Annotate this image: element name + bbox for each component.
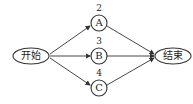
node-a-weight: 2 [91,4,107,13]
node-c-weight: 4 [91,69,107,78]
node-a-label: A [91,18,107,28]
node-b-label: B [91,51,107,61]
edge-start-c [50,58,90,85]
network-diagram: 开始 结束 A B C 2 3 4 [0,0,193,104]
end-node-label: 结束 [153,51,193,61]
node-c-label: C [91,83,107,93]
edge-c-end [107,58,154,85]
edge-a-end [107,26,154,54]
node-b-weight: 3 [91,37,107,46]
edge-start-a [50,26,90,54]
start-node-label: 开始 [11,51,51,61]
